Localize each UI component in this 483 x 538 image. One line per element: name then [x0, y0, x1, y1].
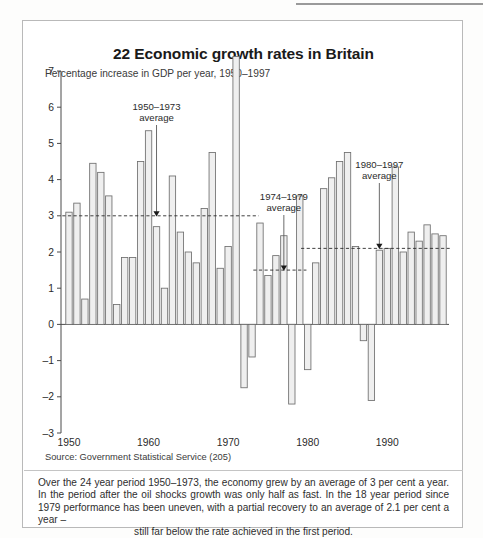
caption-box: Over the 24 year period 1950–1973, the e…	[24, 470, 463, 528]
bar-1965	[185, 252, 191, 324]
bar-1955	[106, 196, 112, 325]
caption-main: Over the 24 year period 1950–1973, the e…	[38, 477, 449, 525]
svg-text:4: 4	[48, 174, 54, 185]
bar-1950	[66, 212, 72, 324]
bar-1983	[328, 178, 334, 325]
svg-text:–3: –3	[43, 428, 55, 439]
figure-frame: 22 Economic growth rates in Britain Perc…	[22, 20, 463, 528]
bar-1967	[201, 209, 207, 325]
bar-1953	[90, 163, 96, 324]
svg-text:–1: –1	[43, 355, 55, 366]
bar-1954	[98, 172, 104, 324]
xtick-1990: 1990	[376, 437, 399, 448]
xtick-1950: 1950	[58, 437, 81, 448]
bar-1952	[82, 299, 88, 324]
bar-1957	[122, 257, 128, 324]
bar-1962	[161, 288, 167, 324]
bar-1963	[169, 176, 175, 324]
bar-1975	[265, 276, 271, 325]
svg-text:6: 6	[48, 102, 54, 113]
svg-text:5: 5	[48, 138, 54, 149]
bar-1966	[193, 263, 199, 325]
bar-1976	[273, 256, 279, 325]
caption-last-line: still far below the rate achieved in the…	[38, 526, 449, 538]
svg-text:3: 3	[48, 210, 54, 221]
xtick-1970: 1970	[217, 437, 240, 448]
bar-1969	[217, 268, 223, 324]
bar-1959	[137, 162, 143, 325]
bar-1973	[249, 324, 255, 357]
svg-text:7: 7	[48, 66, 54, 77]
bar-1997	[440, 236, 446, 325]
bar-1984	[336, 162, 342, 325]
bar-1992	[400, 252, 406, 324]
bar-1989	[376, 250, 382, 324]
svg-text:2: 2	[48, 247, 54, 258]
bar-1981	[313, 263, 319, 325]
svg-text:0: 0	[48, 319, 54, 330]
annotation-line1: 1950–1973	[133, 101, 181, 112]
annotation-line1: 1974–1979	[260, 191, 308, 202]
annotation-line2: average	[139, 112, 174, 123]
annotation-avg-1980-1997: 1980–1997 average	[339, 159, 419, 181]
bar-1974	[257, 223, 263, 324]
bar-1980	[305, 324, 311, 369]
annotation-line1: 1980–1997	[355, 159, 403, 170]
annotation-avg-1950-1973: 1950–1973 average	[117, 101, 197, 123]
bar-1991	[392, 167, 398, 324]
svg-text:1: 1	[48, 283, 54, 294]
bar-1964	[177, 232, 183, 324]
xtick-1980: 1980	[296, 437, 319, 448]
bar-1995	[424, 225, 430, 325]
bar-1960	[145, 131, 151, 325]
bar-1956	[114, 304, 120, 324]
caption-text: Over the 24 year period 1950–1973, the e…	[38, 477, 449, 538]
annotation-avg-1974-1979: 1974–1979 average	[244, 191, 324, 213]
bar-1971	[233, 57, 239, 325]
bar-1990	[384, 248, 390, 324]
bar-1986	[352, 247, 358, 325]
bar-1958	[129, 257, 135, 324]
bar-1993	[408, 232, 414, 324]
bar-1951	[74, 203, 80, 324]
bar-1994	[416, 241, 422, 324]
bar-1970	[225, 247, 231, 325]
bar-chart: –3–2–10123456719501960197019801990	[23, 21, 464, 461]
bar-1979	[297, 196, 303, 325]
page-top-rule	[296, 3, 483, 5]
source-note: Source: Government Statistical Service (…	[45, 452, 445, 462]
xtick-1960: 1960	[137, 437, 160, 448]
annotation-line2: average	[362, 170, 397, 181]
annotation-line2: average	[267, 202, 302, 213]
bar-1978	[289, 324, 295, 404]
svg-text:–2: –2	[43, 391, 55, 402]
bar-1987	[360, 324, 366, 340]
bar-1968	[209, 152, 215, 324]
bar-1996	[432, 234, 438, 325]
bar-1961	[153, 227, 159, 325]
bar-1988	[368, 324, 374, 400]
bar-1972	[241, 324, 247, 387]
